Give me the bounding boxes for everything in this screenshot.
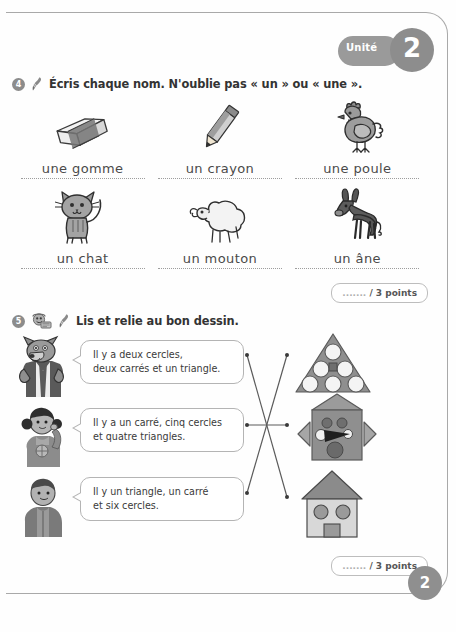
triangle-with-circles-drawing — [294, 332, 372, 394]
answer-dots — [21, 268, 145, 269]
cat-icon — [50, 188, 116, 246]
answer-text-hen: une poule — [295, 161, 419, 176]
drawing-robot-house[interactable] — [294, 392, 404, 468]
bubble-1-line-2: deux carrés et un triangle. — [93, 362, 234, 376]
hen-art — [323, 100, 391, 156]
character-boy — [12, 475, 74, 537]
picture-item-pencil: un crayon — [151, 100, 288, 181]
exercise-5-header: 5 Lis et relie au bon dessin. — [12, 312, 239, 330]
bubble-2-line-1: Il y a un carré, cinq cercles — [93, 416, 234, 430]
exercise-4-row-2: un chat un mouton — [14, 190, 426, 271]
answer-dots — [158, 178, 282, 179]
eraser-art — [45, 100, 121, 156]
exercise-4-header: 4 Écris chaque nom. N'oublie pas « un » … — [12, 76, 362, 92]
answer-line-hen[interactable]: une poule — [295, 161, 419, 181]
donkey-icon — [324, 188, 390, 246]
exercise-5-points-label: / 3 points — [369, 561, 417, 571]
sentence-bubble-2[interactable]: Il y a un carré, cinq cercles et quatre … — [80, 408, 244, 452]
exercise-4-points-label: / 3 points — [369, 288, 417, 298]
sentence-bubble-1[interactable]: Il y a deux cercles, deux carrés et un t… — [80, 340, 244, 384]
workbook-page: Unité 2 4 Écris chaque nom. N'oublie pas… — [0, 0, 456, 632]
picture-item-eraser: une gomme — [14, 100, 151, 181]
cat-art — [50, 190, 116, 246]
pencil-icon — [189, 100, 251, 156]
picture-item-hen: une poule — [289, 100, 426, 181]
answer-text-donkey: un âne — [295, 251, 419, 266]
sentence-bubble-3[interactable]: Il y un triangle, un carré et six cercle… — [80, 477, 244, 521]
answer-dots — [295, 268, 419, 269]
match-line-1 — [247, 355, 287, 497]
exercise-5-matching-area: Il y a deux cercles, deux carrés et un t… — [0, 335, 456, 550]
pen-icon — [57, 313, 71, 329]
bubble-3-line-2: et six cercles. — [93, 499, 234, 513]
unit-label: Unité — [346, 42, 377, 53]
answer-dots — [158, 268, 282, 269]
house-drawing — [294, 469, 370, 541]
answer-line-donkey[interactable]: un âne — [295, 251, 419, 271]
drawing-house[interactable] — [294, 469, 404, 545]
answer-text-eraser: une gomme — [21, 161, 145, 176]
hen-icon — [323, 98, 391, 156]
pencil-art — [189, 100, 251, 156]
picture-item-cat: un chat — [14, 190, 151, 271]
robot-house-drawing — [294, 392, 380, 464]
unit-number: 2 — [403, 33, 421, 63]
answer-line-cat[interactable]: un chat — [21, 251, 145, 271]
exercise-4-points-box[interactable]: ....... / 3 points — [331, 283, 428, 303]
sheep-art — [185, 190, 255, 246]
answer-dots — [21, 178, 145, 179]
exercise-4-row-1: une gomme un crayon — [14, 100, 426, 181]
answer-line-sheep[interactable]: un mouton — [158, 251, 282, 271]
sheep-icon — [185, 194, 255, 246]
exercise-4-instruction: Écris chaque nom. N'oublie pas « un » ou… — [49, 77, 362, 91]
girl-character — [12, 405, 74, 467]
character-girl — [12, 405, 74, 467]
bubble-3-line-1: Il y un triangle, un carré — [93, 485, 234, 499]
answer-line-eraser[interactable]: une gomme — [21, 161, 145, 181]
headphones-icon — [30, 312, 52, 330]
page-number: 2 — [408, 566, 442, 600]
boy-character — [12, 475, 74, 537]
eraser-icon — [45, 110, 121, 156]
bubble-1-line-1: Il y a deux cercles, — [93, 348, 234, 362]
match-line-3 — [247, 355, 287, 493]
drawing-triangle[interactable] — [294, 332, 404, 398]
answer-dots — [295, 178, 419, 179]
exercise-5-points-blank: ....... — [342, 561, 366, 571]
exercise-4-number: 4 — [12, 78, 25, 91]
wolf-character — [12, 335, 74, 397]
exercise-4-points-blank: ....... — [342, 288, 366, 298]
character-wolf — [12, 335, 74, 397]
exercise-5-number: 5 — [12, 315, 25, 328]
answer-line-pencil[interactable]: un crayon — [158, 161, 282, 181]
pen-icon — [30, 76, 44, 92]
answer-text-sheep: un mouton — [158, 251, 282, 266]
donkey-art — [324, 190, 390, 246]
unit-badge: Unité 2 — [338, 28, 434, 72]
bubble-2-line-2: et quatre triangles. — [93, 430, 234, 444]
picture-item-donkey: un âne — [289, 190, 426, 271]
exercise-5-instruction: Lis et relie au bon dessin. — [76, 314, 239, 328]
picture-item-sheep: un mouton — [151, 190, 288, 271]
answer-text-cat: un chat — [21, 251, 145, 266]
answer-text-pencil: un crayon — [158, 161, 282, 176]
